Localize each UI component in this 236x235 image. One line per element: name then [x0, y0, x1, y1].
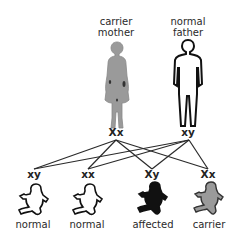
- child-4-baby-icon: [191, 180, 225, 218]
- child-2-label: normal: [62, 219, 112, 230]
- child-4-genotype: Xx: [196, 169, 220, 180]
- child-1-label: normal: [8, 219, 58, 230]
- child-4-label: carrier: [184, 219, 234, 230]
- child-3-baby-icon: [135, 180, 169, 218]
- child-1-baby-icon: [16, 182, 50, 218]
- child-3-label: affected: [125, 219, 181, 230]
- child-2-genotype: xx: [76, 169, 100, 180]
- child-1-genotype: xy: [22, 169, 46, 180]
- child-3-genotype: Xy: [140, 169, 164, 180]
- child-2-baby-icon: [70, 182, 104, 218]
